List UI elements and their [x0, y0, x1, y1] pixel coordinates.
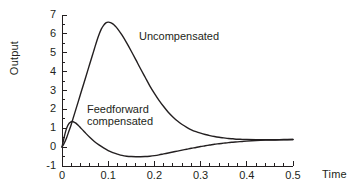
y-tick-label: 3 — [40, 84, 56, 96]
y-tick-label: 1 — [40, 121, 56, 133]
y-tick-label: 6 — [40, 27, 56, 39]
x-tick-label: 0.3 — [187, 169, 215, 181]
series-label-feedforward: Feedforward compensated — [87, 103, 153, 127]
x-tick-label: 0.2 — [140, 169, 168, 181]
x-tick-label: 0.4 — [233, 169, 261, 181]
y-tick-label: 0 — [40, 140, 56, 152]
chart-figure: Output Time -101234567 00.10.20.30.40.5 … — [0, 0, 364, 189]
x-axis-title: Time — [322, 168, 347, 180]
y-tick-label: 4 — [40, 65, 56, 77]
y-axis-title: Output — [8, 30, 20, 86]
series-label-uncompensated: Uncompensated — [139, 30, 219, 42]
y-tick-label: 2 — [40, 102, 56, 114]
y-tick-label: 5 — [40, 46, 56, 58]
x-tick-label: 0.1 — [94, 169, 122, 181]
data-series — [62, 22, 293, 157]
x-tick-label: 0.5 — [279, 169, 307, 181]
x-tick-label: 0 — [48, 169, 76, 181]
y-tick-label: 7 — [40, 8, 56, 20]
